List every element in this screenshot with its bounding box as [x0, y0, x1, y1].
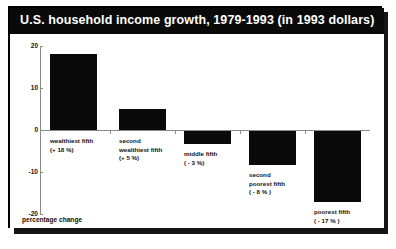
bar-caption-line3: ( - 8 % ) — [249, 188, 285, 197]
bar-caption-second-wealthiest-fifth: second wealthiest fifth (+ 5 %) — [119, 137, 162, 163]
bar-caption-line1: second — [119, 137, 162, 146]
plot-area: 20 10 0 -10 -20 — [10, 34, 384, 228]
bar-caption-second-poorest-fifth: second poorest fifth ( - 8 % ) — [249, 171, 285, 197]
bar-caption-line1: second — [249, 171, 285, 180]
x-tick-2 — [175, 130, 176, 134]
bar-caption-line2: (+ 18 %) — [50, 146, 93, 155]
chart-title-bar: U.S. household income growth, 1979-1993 … — [10, 8, 384, 34]
y-tick-20: 20 — [12, 42, 38, 50]
page-title: U.S. household income growth, 1979-1993 … — [20, 13, 374, 27]
bar-caption-line1: middle fifth — [184, 150, 217, 159]
y-axis-caption: percentage change — [22, 216, 82, 223]
y-tick-mark-neg20 — [40, 214, 43, 215]
x-tick-3 — [240, 130, 241, 134]
y-tick-label-20: 20 — [16, 42, 38, 49]
chart-card: U.S. household income growth, 1979-1993 … — [8, 6, 382, 228]
bar-caption-line1: poorest fifth — [314, 208, 350, 217]
bar-caption-line2: ( - 3 %) — [184, 159, 217, 168]
bar-caption-middle-fifth: middle fifth ( - 3 %) — [184, 150, 217, 167]
x-tick-4 — [305, 130, 306, 134]
bar-middle-fifth — [184, 131, 231, 144]
bar-caption-poorest-fifth: poorest fifth ( - 17 % ) — [314, 208, 350, 225]
bar-caption-line1: wealthiest fifth — [50, 137, 93, 146]
bar-caption-line2: ( - 17 % ) — [314, 217, 350, 226]
y-tick-label-neg10: -10 — [16, 168, 38, 175]
y-tick-mark-10 — [40, 88, 43, 89]
bar-wealthiest-fifth — [50, 54, 97, 130]
y-tick-mark-neg10 — [40, 172, 43, 173]
bar-poorest-fifth — [314, 131, 361, 202]
y-tick-0: 0 — [12, 126, 38, 134]
y-tick-label-10: 10 — [16, 84, 38, 91]
y-tick-neg10: -10 — [12, 168, 38, 176]
x-tick-1 — [110, 130, 111, 134]
bar-caption-line3: (+ 5 %) — [119, 154, 162, 163]
bar-caption-line2: poorest fifth — [249, 180, 285, 189]
bar-caption-wealthiest-fifth: wealthiest fifth (+ 18 %) — [50, 137, 93, 154]
bar-caption-line2: wealthiest fifth — [119, 146, 162, 155]
bar-second-poorest-fifth — [249, 131, 296, 165]
chart-figure: U.S. household income growth, 1979-1993 … — [0, 0, 396, 249]
y-tick-mark-20 — [40, 46, 43, 47]
y-tick-10: 10 — [12, 84, 38, 92]
bar-second-wealthiest-fifth — [119, 109, 166, 130]
y-tick-label-0: 0 — [16, 126, 38, 133]
